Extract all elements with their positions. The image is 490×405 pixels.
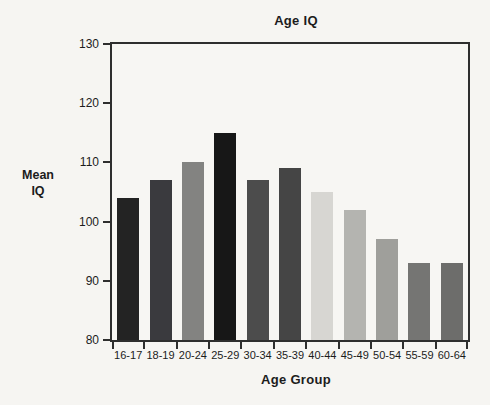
x-axis-tick-8 [370, 342, 372, 349]
x-axis-tick-0 [112, 342, 114, 349]
x-axis-tick-1 [143, 342, 145, 349]
bar-45-49 [344, 210, 366, 340]
bar-18-19 [150, 180, 172, 340]
x-axis-tick-11 [466, 342, 468, 349]
bar-35-39 [279, 168, 301, 340]
y-axis-label: Mean IQ [13, 167, 63, 199]
y-axis-tick-130 [103, 43, 110, 45]
y-axis-tick-110 [103, 161, 110, 163]
x-axis-tick-10 [435, 342, 437, 349]
y-axis-tick-label-120: 120 [64, 97, 99, 109]
x-axis-label: Age Group [110, 372, 482, 387]
bar-55-59 [408, 263, 430, 340]
bar-50-54 [376, 239, 398, 340]
x-cat-label-60-64: 60-64 [429, 349, 475, 361]
y-axis-tick-80 [103, 339, 110, 341]
chart-title: Age IQ [118, 13, 474, 28]
bar-16-17 [117, 198, 139, 340]
x-axis-tick-3 [208, 342, 210, 349]
bar-60-64 [441, 263, 463, 340]
y-axis-tick-label-90: 90 [64, 275, 99, 287]
bar-40-44 [311, 192, 333, 340]
x-axis-tick-7 [338, 342, 340, 349]
y-axis-label-line1: Mean [13, 167, 63, 183]
bar-25-29 [214, 133, 236, 340]
bar-20-24 [182, 162, 204, 340]
x-axis-tick-2 [176, 342, 178, 349]
x-axis-tick-9 [402, 342, 404, 349]
bar-30-34 [247, 180, 269, 340]
y-axis-tick-label-110: 110 [64, 156, 99, 168]
x-axis-tick-5 [273, 342, 275, 349]
y-axis-tick-100 [103, 221, 110, 223]
x-axis-tick-6 [305, 342, 307, 349]
chart-page: Age IQ Mean IQ 809010011012013016-1718-1… [0, 0, 490, 405]
y-axis-tick-label-80: 80 [64, 334, 99, 346]
y-axis-tick-label-130: 130 [64, 38, 99, 50]
y-axis-label-line2: IQ [13, 183, 63, 199]
plot-area: 809010011012013016-1718-1920-2425-2930-3… [110, 42, 470, 342]
y-axis-tick-90 [103, 280, 110, 282]
x-axis-tick-4 [240, 342, 242, 349]
y-axis-tick-label-100: 100 [64, 216, 99, 228]
y-axis-tick-120 [103, 102, 110, 104]
